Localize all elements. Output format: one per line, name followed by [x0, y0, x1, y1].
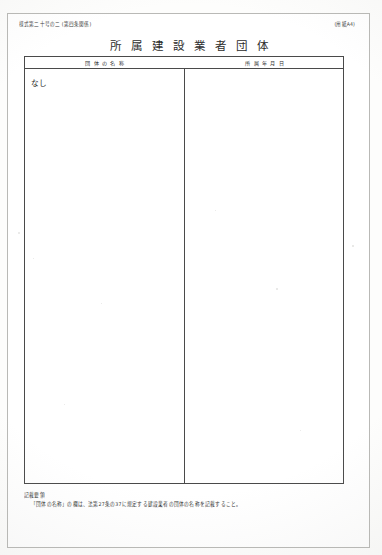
table-body: なし: [25, 69, 343, 483]
cell-organization-name: なし: [25, 69, 184, 483]
page-title: 所属建設業者団体: [8, 37, 369, 53]
notes-item: 「団体の名称」の欄は、法第27条の37に規定する建設業者の団体の名称を記載するこ…: [24, 500, 354, 507]
organization-name-value: なし: [31, 77, 48, 88]
table-header-row: 団体の名称 所属年月日: [25, 57, 343, 69]
column-header-organization-name: 団体の名称: [25, 57, 184, 69]
form-code-label: 様式第二十号の二 (第四条関係): [19, 20, 91, 27]
paper-size-label: (用紙A4): [334, 20, 355, 27]
document-meta-row: 様式第二十号の二 (第四条関係) (用紙A4): [8, 20, 369, 32]
scanned-page-surface: 様式第二十号の二 (第四条関係) (用紙A4) 所属建設業者団体 団体の名称 所…: [0, 0, 382, 555]
document-sheet: 様式第二十号の二 (第四条関係) (用紙A4) 所属建設業者団体 団体の名称 所…: [7, 13, 370, 548]
column-header-affiliation-date: 所属年月日: [185, 57, 344, 69]
affiliated-organizations-table: 団体の名称 所属年月日 なし: [24, 56, 344, 484]
notes-heading: 記載要領: [24, 491, 354, 498]
completion-notes: 記載要領 「団体の名称」の欄は、法第27条の37に規定する建設業者の団体の名称を…: [24, 491, 354, 506]
document-content-area: 様式第二十号の二 (第四条関係) (用紙A4) 所属建設業者団体 団体の名称 所…: [8, 14, 369, 547]
cell-affiliation-date: [185, 69, 344, 483]
